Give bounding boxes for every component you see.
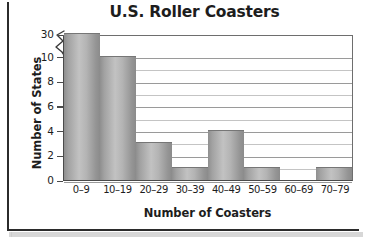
chart-figure: U.S. Roller Coasters Number of States Nu…	[0, 0, 369, 247]
figure-border-left	[7, 2, 9, 231]
x-axis-tick-label: 60–69	[281, 184, 317, 195]
bar-slot	[316, 36, 352, 180]
figure-border-bottom	[7, 229, 359, 231]
plot-area	[63, 35, 353, 181]
x-axis-tick-label: 50–59	[244, 184, 280, 195]
bar-slot	[100, 36, 136, 180]
bar	[244, 167, 280, 180]
y-axis-tick-label: 8	[28, 75, 54, 87]
bar	[208, 130, 244, 180]
x-axis-tick-label: 30–39	[172, 184, 208, 195]
x-axis-tick-label: 10–19	[99, 184, 135, 195]
bar	[64, 33, 100, 180]
x-axis-title: Number of Coasters	[55, 206, 360, 220]
y-axis-tick-label: 4	[28, 125, 54, 137]
bar-slot	[244, 36, 280, 180]
bar	[316, 167, 352, 180]
y-axis-tick-label: 30	[28, 28, 54, 40]
bar-slot	[280, 36, 316, 180]
bar-slot	[64, 36, 100, 180]
y-axis-tick-label: 6	[28, 100, 54, 112]
x-axis-tick-label: 20–29	[136, 184, 172, 195]
bar	[172, 167, 208, 180]
bar-slot	[208, 36, 244, 180]
chart-title: U.S. Roller Coasters	[0, 3, 369, 21]
bar-series	[64, 36, 352, 180]
bar-slot	[136, 36, 172, 180]
x-axis-tick-label: 40–49	[208, 184, 244, 195]
gridline	[64, 182, 352, 183]
bar	[136, 142, 172, 180]
bar	[100, 56, 136, 180]
figure-shadow-bottom	[11, 232, 363, 237]
x-axis-tick-label: 0–9	[63, 184, 99, 195]
x-axis-tick-labels: 0–910–1920–2930–3940–4950–5960–6970–79	[63, 184, 353, 195]
bar-slot	[172, 36, 208, 180]
x-axis-tick-label: 70–79	[317, 184, 353, 195]
y-axis-tick-label: 0	[28, 174, 54, 186]
y-axis-tick-label: 10	[28, 51, 54, 63]
y-axis-tick-label: 2	[28, 149, 54, 161]
